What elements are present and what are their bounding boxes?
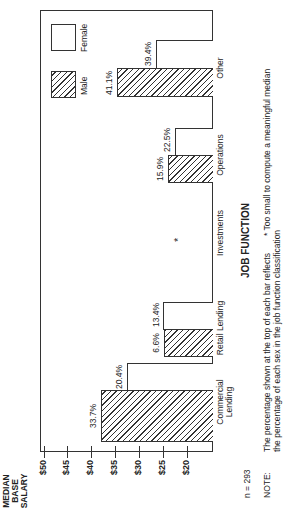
y-tick	[91, 446, 92, 458]
y-tick-label: $40	[85, 460, 95, 488]
category-commercial-lending: Commercial Lending	[216, 362, 234, 442]
y-tick-label: $30	[133, 460, 143, 488]
sample-size: n = 293	[242, 469, 252, 498]
legend-label-female: Female	[79, 24, 89, 52]
y-axis-label-line: SALARY	[20, 466, 29, 516]
legend-swatch-female	[51, 24, 76, 51]
y-tick-label: $50	[38, 460, 48, 488]
y-tick-label: $35	[109, 460, 119, 488]
y-axis-label: MEDIAN BASE SALARY	[2, 466, 29, 516]
pct-label: 41.1%	[104, 63, 114, 103]
category-investments: Investments	[216, 198, 225, 268]
bar-commercial-lending-male	[101, 390, 213, 442]
bar-other-female	[156, 40, 213, 69]
bar-retail-lending-male	[164, 329, 213, 357]
bar-retail-lending-female	[163, 302, 213, 330]
pct-label: 13.4%	[151, 295, 161, 335]
pct-label: 22.5%	[162, 120, 172, 160]
insufficient-data-star: *	[172, 238, 184, 242]
bar-other-male	[117, 68, 213, 97]
y-tick	[67, 446, 68, 458]
chart-rotated-container: MEDIAN BASE SALARY $50 $45 $40 $35 $30 $…	[0, 0, 287, 518]
y-tick-label: $25	[157, 460, 167, 488]
y-tick	[163, 446, 164, 458]
y-tick-label: $20	[181, 460, 191, 488]
category-retail-lending: Retail Lending	[216, 298, 225, 358]
category-label-line: Lending	[225, 362, 234, 442]
bar-operations-male	[168, 155, 213, 183]
y-tick	[115, 446, 116, 458]
y-tick	[44, 446, 45, 458]
note-line: the percentage of each sex in the job fu…	[272, 230, 282, 452]
pct-label: 20.4%	[114, 357, 124, 397]
legend-swatch-male	[51, 71, 76, 98]
category-operations: Operations	[216, 127, 225, 183]
x-axis-label: JOB FUNCTION	[240, 203, 251, 278]
star-footnote: * Too small to compute a meaningful medi…	[262, 69, 272, 236]
note-text: The percentage shown at the top of each …	[262, 230, 282, 452]
note-line: The percentage shown at the top of each …	[262, 230, 272, 452]
bar-operations-female	[175, 128, 213, 156]
pct-label: 33.7%	[88, 396, 98, 436]
legend-label-male: Male	[79, 77, 89, 95]
y-tick-label: $45	[61, 460, 71, 488]
y-tick	[187, 446, 188, 458]
category-other: Other	[216, 43, 225, 93]
pct-label: 39.4%	[143, 34, 153, 74]
bar-commercial-lending-female	[127, 363, 213, 391]
note-label: NOTE:	[262, 472, 272, 498]
y-tick	[139, 446, 140, 458]
